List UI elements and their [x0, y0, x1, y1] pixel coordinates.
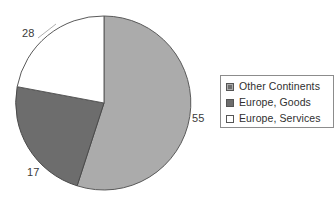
empty-white-square-icon [226, 115, 234, 123]
data-label-other-continents: 55 [192, 112, 205, 124]
legend-item-other-continents[interactable]: Other Continents [226, 79, 329, 94]
chart-legend: Other Continents Europe, Goods Europe, S… [220, 75, 334, 128]
legend-item-label: Other Continents [239, 81, 320, 92]
solid-dark-gray-square-icon [226, 99, 234, 107]
pie-slices [16, 16, 191, 190]
legend-item-europe-goods[interactable]: Europe, Goods [226, 95, 329, 110]
pie-chart-figure: 55 17 28 Other Continents Europe, Goods … [0, 0, 336, 200]
data-label-europe-goods: 17 [27, 166, 40, 178]
legend-item-label: Europe, Goods [239, 97, 311, 108]
legend-item-label: Europe, Services [239, 113, 321, 124]
pattern-light-gray-square-icon [226, 83, 234, 91]
data-label-europe-services: 28 [22, 27, 35, 39]
legend-item-europe-services[interactable]: Europe, Services [226, 111, 329, 126]
